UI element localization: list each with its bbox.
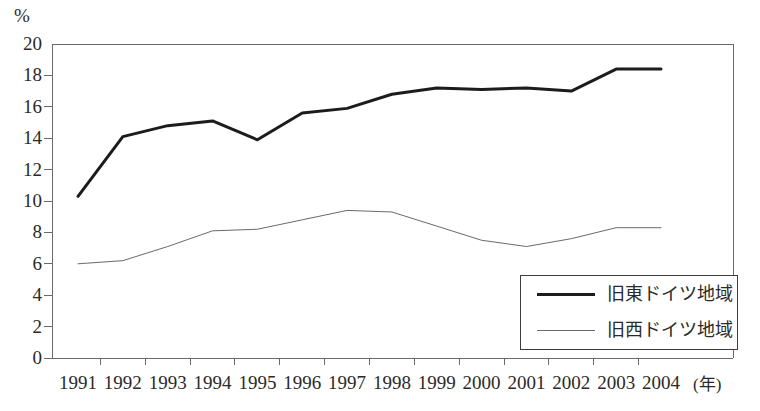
y-tick-label: 0 (2, 348, 42, 367)
legend-label-east: 旧東ドイツ地域 (607, 284, 733, 304)
y-tick-label: 12 (2, 160, 42, 179)
x-tick-label: 2004 (631, 373, 691, 392)
legend-label-west: 旧西ドイツ地域 (607, 320, 733, 340)
series-line-west (78, 210, 661, 263)
y-tick-label: 20 (2, 34, 42, 53)
y-tick-label: 8 (2, 222, 42, 241)
legend-item-east: 旧東ドイツ地域 (521, 276, 737, 312)
y-tick-label: 2 (2, 317, 42, 336)
y-tick-label: 6 (2, 254, 42, 273)
x-axis-unit-label: (年) (693, 375, 721, 394)
series-line-east (78, 69, 661, 196)
y-tick-label: 16 (2, 97, 42, 116)
legend-line-swatch-west-icon (537, 330, 595, 331)
y-tick-label: 10 (2, 191, 42, 210)
legend: 旧東ドイツ地域 旧西ドイツ地域 (520, 275, 738, 350)
y-tick-label: 14 (2, 128, 42, 147)
y-tick-label: 18 (2, 65, 42, 84)
legend-item-west: 旧西ドイツ地域 (521, 312, 737, 348)
legend-line-swatch-east-icon (537, 293, 595, 296)
y-tick-label: 4 (2, 285, 42, 304)
data-series (78, 69, 661, 264)
line-chart: % 02468101214161820 19911992199319941995… (0, 0, 760, 411)
